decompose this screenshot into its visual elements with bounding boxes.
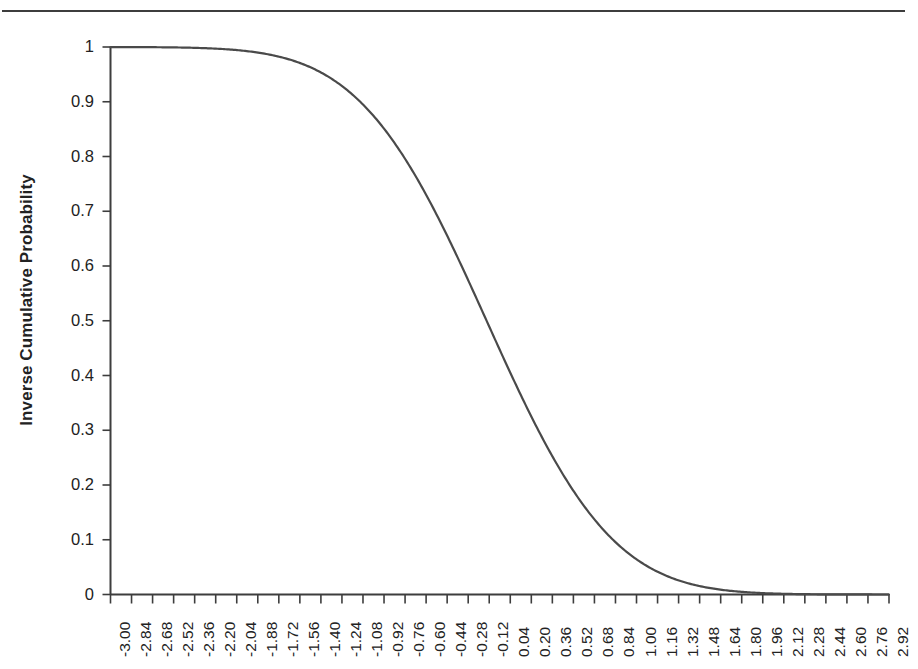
x-axis-tick-label: 0.20 xyxy=(537,626,552,656)
x-axis-tick-label: 0.84 xyxy=(621,626,636,656)
y-axis-tick-label: 0.7 xyxy=(30,202,94,218)
x-axis-tick-label: 0.52 xyxy=(579,626,594,656)
x-axis-tick-label: 0.04 xyxy=(516,626,531,656)
chart-plot-area xyxy=(0,0,918,669)
x-axis-tick-label: -1.40 xyxy=(327,621,342,656)
y-axis-tick-label: 0.2 xyxy=(30,476,94,492)
y-axis-tick-label: 0.8 xyxy=(30,148,94,164)
x-axis-tick-label: -2.36 xyxy=(201,621,216,656)
x-axis-tick-label: -2.04 xyxy=(243,621,258,656)
x-axis-tick-label: -1.72 xyxy=(285,621,300,656)
y-axis-tick-label: 0.1 xyxy=(30,531,94,547)
x-axis-tick-label: -1.24 xyxy=(348,621,363,656)
y-axis-tick-label: 0.9 xyxy=(30,93,94,109)
figure-container: Inverse Cumulative Probability 10.90.80.… xyxy=(0,0,918,669)
x-axis-tick-label: 1.32 xyxy=(685,626,700,656)
y-axis-tick-label: 1 xyxy=(30,38,94,54)
x-axis-tick-label: -2.84 xyxy=(138,621,153,656)
x-axis-tick-label: 2.92 xyxy=(895,626,910,656)
x-axis-tick-label: 0.68 xyxy=(600,626,615,656)
y-axis-tick-label: 0.6 xyxy=(30,257,94,273)
x-axis-tick-label: -0.44 xyxy=(453,621,468,656)
y-axis-ticks xyxy=(103,47,111,595)
inverse-cumulative-probability-curve xyxy=(111,47,890,594)
x-axis-tick-label: -1.08 xyxy=(369,621,384,656)
x-axis-ticks xyxy=(111,595,890,604)
x-axis-tick-label: -2.68 xyxy=(159,621,174,656)
x-axis-tick-label: -0.92 xyxy=(390,621,405,656)
x-axis-tick-label: -1.56 xyxy=(306,621,321,656)
x-axis-tick-label: 1.64 xyxy=(727,626,742,656)
x-axis-tick-label: 1.48 xyxy=(706,626,721,656)
y-axis-tick-label: 0 xyxy=(30,586,94,602)
x-axis-tick-label: -0.28 xyxy=(474,621,489,656)
x-axis-tick-label: 2.44 xyxy=(832,626,847,656)
x-axis-tick-label: 1.00 xyxy=(643,626,658,656)
x-axis-tick-label: 2.76 xyxy=(874,626,889,656)
y-axis-tick-label: 0.4 xyxy=(30,367,94,383)
y-axis-tick-label: 0.3 xyxy=(30,421,94,437)
x-axis-tick-label: -3.00 xyxy=(117,621,132,656)
x-axis-tick-label: -0.12 xyxy=(495,621,510,656)
axis-lines xyxy=(110,47,889,595)
x-axis-tick-label: -1.88 xyxy=(264,621,279,656)
x-axis-tick-label: -0.60 xyxy=(432,621,447,656)
x-axis-tick-label: 1.80 xyxy=(748,626,763,656)
x-axis-tick-label: 1.96 xyxy=(769,626,784,656)
x-axis-tick-label: 0.36 xyxy=(558,626,573,656)
x-axis-tick-label: -2.52 xyxy=(180,621,195,656)
x-axis-tick-label: 2.12 xyxy=(790,626,805,656)
x-axis-tick-label: -2.20 xyxy=(222,621,237,656)
x-axis-tick-label: 2.28 xyxy=(811,626,826,656)
x-axis-tick-label: 1.16 xyxy=(664,626,679,656)
x-axis-tick-label: 2.60 xyxy=(853,626,868,656)
y-axis-tick-label: 0.5 xyxy=(30,312,94,328)
x-axis-tick-label: -0.76 xyxy=(411,621,426,656)
